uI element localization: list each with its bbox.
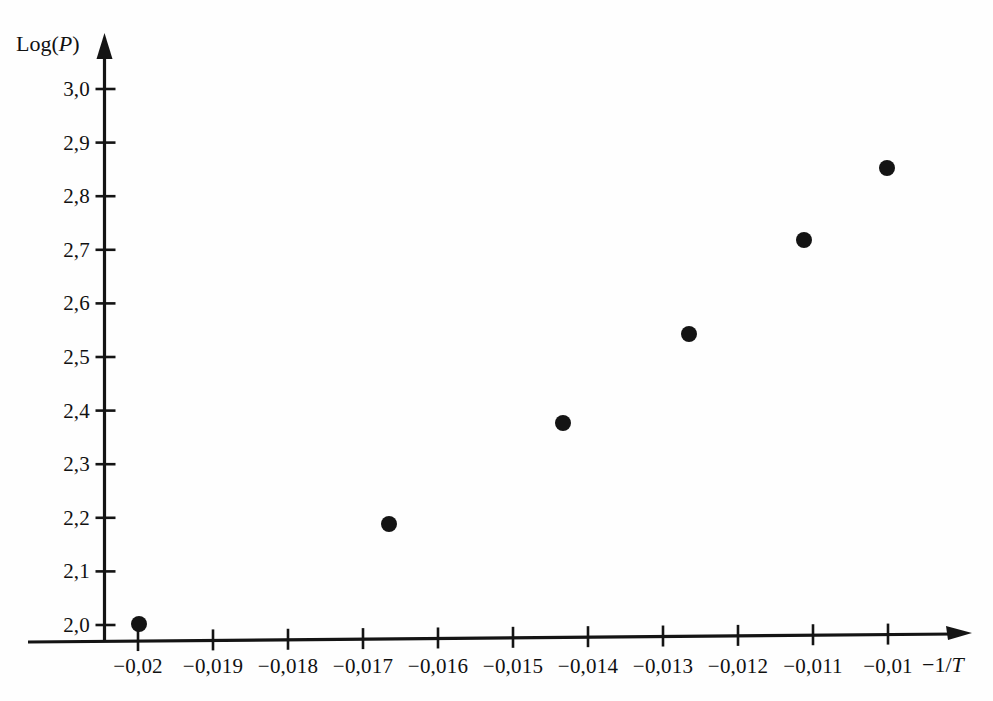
x-axis-arrow-icon xyxy=(946,626,972,640)
plot-area: (−0,02; 1,98)(−0,0164; 2,17)(−0,0141; 2,… xyxy=(0,0,993,701)
x-axis-tick-label: −0,015 xyxy=(470,656,556,677)
data-point: (−0,0141; 2,37) xyxy=(555,415,571,431)
figure-canvas: (−0,02; 1,98)(−0,0164; 2,17)(−0,0141; 2,… xyxy=(0,0,993,701)
data-point: (−0,0098; 2,86) xyxy=(879,160,895,176)
x-axis-tick-label: −0,011 xyxy=(770,656,856,677)
x-axis-tick-label: −0,014 xyxy=(545,656,631,677)
x-axis-tick-label: −0,017 xyxy=(320,656,406,677)
x-axis-variable: T xyxy=(952,652,964,677)
y-axis-tick-label: 2,3 xyxy=(14,454,90,475)
x-axis-line xyxy=(28,634,956,642)
y-axis-tick-label: 2,7 xyxy=(14,240,90,261)
x-axis-title: −1/T xyxy=(922,654,964,676)
x-axis-tick-label: −0,02 xyxy=(95,656,181,677)
y-axis-tick-label: 2,8 xyxy=(14,186,90,207)
y-axis-tick-label: 2,9 xyxy=(14,133,90,154)
y-axis-variable: P xyxy=(59,31,72,56)
x-axis-tick-label: −0,013 xyxy=(620,656,706,677)
y-axis-tick-label: 2,0 xyxy=(14,615,90,636)
y-axis-tick-label: 2,1 xyxy=(14,561,90,582)
y-axis-tick-label: 2,5 xyxy=(14,347,90,368)
data-points-group: (−0,02; 1,98)(−0,0164; 2,17)(−0,0141; 2,… xyxy=(131,160,895,632)
data-point: (−0,02; 1,98) xyxy=(131,616,147,632)
y-axis-tick-label: 2,2 xyxy=(14,508,90,529)
y-axis-arrow-icon xyxy=(97,33,113,59)
y-axis-tick-label: 3,0 xyxy=(14,79,90,100)
data-point: (−0,0164; 2,17) xyxy=(381,516,397,532)
x-axis-tick-label: −0,012 xyxy=(695,656,781,677)
ticks-group xyxy=(96,89,889,651)
x-axis-tick-label: −0,018 xyxy=(245,656,331,677)
x-axis-tick-label: −0,01 xyxy=(845,656,931,677)
data-point: (−0,0125; 2,54) xyxy=(681,326,697,342)
axes-group xyxy=(28,33,972,642)
data-point: (−0,0111; 2,72) xyxy=(796,232,812,248)
y-axis-tick-label: 2,6 xyxy=(14,293,90,314)
y-axis-title: Log(P) xyxy=(16,33,80,55)
x-axis-tick-label: −0,019 xyxy=(170,656,256,677)
x-axis-tick-label: −0,016 xyxy=(395,656,481,677)
y-axis-tick-label: 2,4 xyxy=(14,401,90,422)
